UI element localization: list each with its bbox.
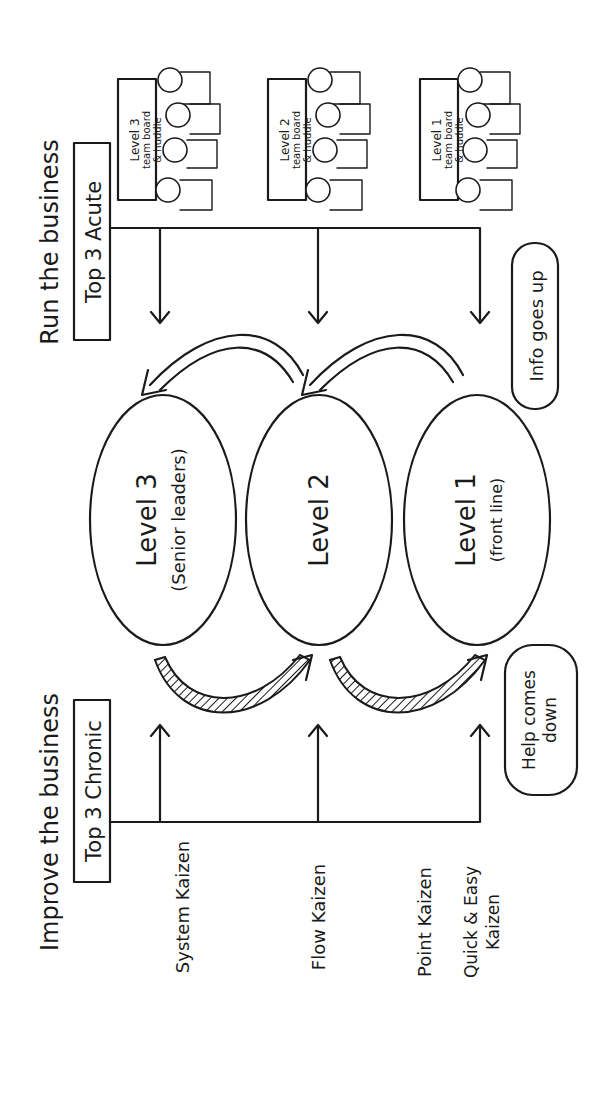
info-goes-up-cloud: Info goes up	[512, 243, 558, 409]
svg-text:(Senior leaders): (Senior leaders)	[168, 448, 189, 591]
huddle-label: & huddle	[454, 117, 465, 162]
help-down-arrow-level2-to-1	[330, 655, 487, 713]
info-up-arrow-level1-to-2	[302, 335, 463, 395]
top3-chronic-label: Top 3 Chronic	[82, 720, 106, 863]
svg-text:Level 2: Level 2	[304, 473, 334, 566]
team-board-level3: Level 3 team board	[118, 79, 156, 200]
kaizen-label-point: Point Kaizen	[414, 867, 435, 977]
acute-connector-line	[110, 228, 480, 320]
svg-text:Level 1: Level 1	[451, 473, 481, 566]
help-comes-down-cloud: Help comes down	[505, 645, 577, 795]
run-business-title: Run the business	[36, 139, 64, 344]
level3-ellipse: Level 3 (Senior leaders)	[90, 395, 236, 645]
kaizen-label-quick-easy: Quick & Easy	[461, 866, 481, 978]
improve-business-title: Improve the business	[36, 693, 64, 951]
team-board-level1: Level 1 team board	[420, 79, 458, 200]
svg-text:(front line): (front line)	[487, 478, 506, 563]
svg-text:Level 3: Level 3	[128, 118, 142, 161]
team-board-level2: Level 2 team board	[268, 79, 306, 200]
lean-management-levels-diagram: Run the business Top 3 Acute Level 3 tea…	[0, 0, 606, 1111]
level2-ellipse: Level 2	[246, 395, 392, 645]
svg-text:Info goes up: Info goes up	[526, 270, 547, 381]
huddle-label: & huddle	[302, 117, 313, 162]
help-down-arrow-level3-to-2	[155, 655, 312, 713]
huddle-people-icon	[156, 68, 520, 210]
svg-text:Level 2: Level 2	[278, 118, 292, 161]
info-up-arrow-level2-to-3	[142, 335, 303, 395]
svg-text:team board: team board	[141, 111, 152, 169]
top3-acute-label: Top 3 Acute	[82, 181, 106, 304]
svg-text:team board: team board	[291, 111, 302, 169]
svg-text:down: down	[540, 697, 560, 743]
svg-text:team board: team board	[443, 111, 454, 169]
huddle-label: & huddle	[152, 117, 163, 162]
svg-text:Level 3: Level 3	[132, 473, 162, 566]
kaizen-label-quick-easy-line2: Kaizen	[483, 894, 503, 950]
kaizen-label-flow: Flow Kaizen	[308, 864, 329, 970]
svg-text:Help comes: Help comes	[519, 670, 539, 770]
level1-ellipse: Level 1 (front line)	[404, 395, 550, 645]
chronic-connector-line	[110, 725, 480, 822]
kaizen-label-system: System Kaizen	[172, 841, 193, 973]
svg-text:Level 1: Level 1	[430, 118, 444, 161]
